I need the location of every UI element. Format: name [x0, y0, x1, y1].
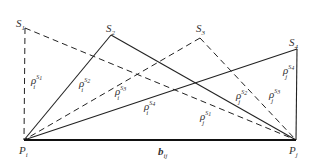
satellite-s3-lines	[24, 38, 296, 140]
rho-j-s2: ρS2j	[235, 89, 247, 106]
rho-i-s2: ρS2i	[78, 77, 90, 94]
label-pj: Pj	[288, 144, 298, 159]
satellite-s1-lines	[24, 28, 296, 140]
rho-j-s3: ρS3j	[268, 88, 280, 105]
label-pi: Pi	[18, 144, 28, 159]
rho-j-s1: ρS1j	[199, 110, 211, 127]
rho-j-s4: ρS4j	[282, 64, 294, 81]
rho-i-s3: ρS3i	[114, 85, 126, 102]
label-s3: S3	[196, 22, 206, 37]
rho-i-s4: ρS4i	[143, 100, 155, 117]
rho-i-s1: ρS1i	[30, 74, 42, 91]
satellite-s2-lines	[24, 35, 296, 140]
label-baseline: bij	[158, 145, 167, 160]
label-s2: S2	[106, 22, 116, 37]
label-s1: S1	[16, 17, 25, 32]
label-s4: S4	[289, 36, 299, 51]
double-difference-diagram: S1 S2 S3 S4 Pi Pj bij ρS1i ρS2i ρS3i ρS4…	[0, 0, 314, 168]
